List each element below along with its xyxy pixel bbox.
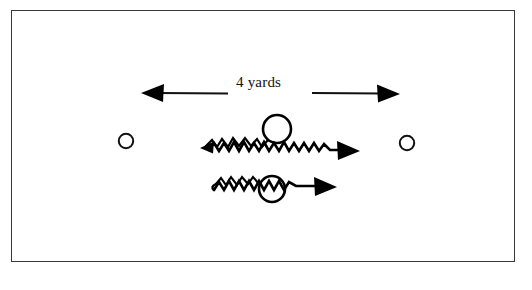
player-top-icon: [263, 115, 291, 143]
route-bottom-zigzag-overstroke: [216, 177, 259, 185]
route-top-end-arrowhead: [337, 141, 360, 160]
route-top-start-arrowhead: [200, 142, 214, 154]
cone-right-icon: [400, 136, 414, 150]
measurement-label: 4 yards: [236, 74, 281, 91]
measure-arrow-right-icon: [312, 85, 400, 103]
measure-arrow-left-icon: [141, 84, 228, 102]
drill-diagram: 4 yards: [0, 0, 532, 290]
player-bottom-group: [212, 176, 337, 202]
drill-graphics: [0, 0, 532, 290]
route-bottom-end-arrowhead: [314, 177, 337, 196]
route-bottom-zigzag: [214, 181, 318, 190]
player-top-group: [200, 115, 360, 160]
cone-left-icon: [119, 134, 133, 148]
